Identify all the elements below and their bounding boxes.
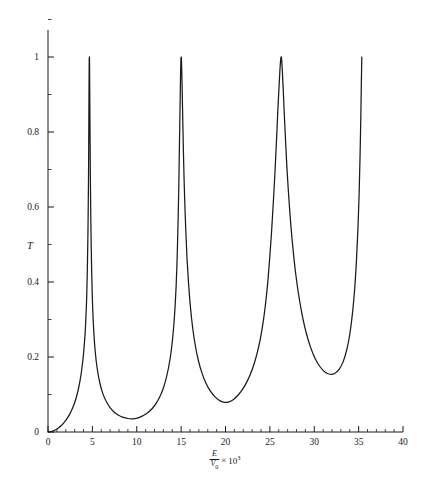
x-tick-label: 15 — [176, 437, 186, 447]
y-tick-label: 0 — [0, 427, 39, 437]
x-axis-fraction-denominator-subscript: 0 — [215, 464, 218, 470]
x-tick-label: 25 — [265, 437, 275, 447]
power-base: 10 — [228, 456, 237, 466]
y-tick-label: 0.6 — [0, 202, 39, 212]
x-tick-label: 0 — [46, 437, 51, 447]
x-tick-label: 20 — [221, 437, 231, 447]
x-tick-label: 10 — [132, 437, 142, 447]
plot-canvas — [0, 0, 431, 478]
multiplication-symbol: × — [219, 456, 228, 465]
x-tick-label: 5 — [90, 437, 95, 447]
transmission-coefficient-figure: 0510152025303540 00.20.40.60.81 T E V0 ×… — [0, 0, 431, 478]
x-axis-fraction: E V0 — [209, 450, 219, 470]
y-tick-label: 0.2 — [0, 352, 39, 362]
y-axis-ticks — [48, 20, 54, 433]
y-tick-label: 0.4 — [0, 277, 39, 287]
x-tick-label: 35 — [354, 437, 364, 447]
power-of-ten: 103 — [228, 455, 240, 466]
y-axis-title: T — [27, 240, 33, 251]
y-tick-label: 0.8 — [0, 127, 39, 137]
transmission-curve — [48, 57, 362, 432]
x-axis-fraction-denominator: V0 — [209, 460, 219, 470]
y-tick-label: 1 — [0, 52, 39, 62]
x-tick-label: 30 — [310, 437, 320, 447]
x-tick-label: 40 — [398, 437, 408, 447]
x-axis-title: E V0 ×103 — [209, 450, 240, 470]
x-axis-ticks — [48, 426, 403, 432]
axis-lines — [48, 30, 403, 432]
power-exponent: 3 — [237, 454, 240, 461]
x-axis-fraction-numerator: E — [209, 450, 219, 458]
